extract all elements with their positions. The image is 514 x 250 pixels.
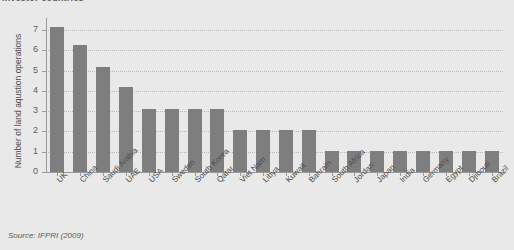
bar — [50, 27, 64, 172]
source-note: Source: IFPRI (2009) — [8, 231, 84, 240]
gridline — [46, 131, 503, 132]
y-tick-mark — [42, 30, 46, 31]
y-tick-label: 1 — [12, 146, 38, 156]
bar — [233, 130, 247, 172]
gridline — [46, 71, 503, 72]
y-axis-line — [46, 18, 47, 173]
y-tick-label: 5 — [12, 65, 38, 75]
y-tick-label: 4 — [12, 85, 38, 95]
y-axis-title: Number of land aqustion operations — [13, 11, 23, 191]
bar — [416, 151, 430, 172]
y-tick-mark — [42, 131, 46, 132]
y-tick-mark — [42, 91, 46, 92]
y-tick-mark — [42, 50, 46, 51]
y-tick-label: 2 — [12, 125, 38, 135]
bar — [165, 109, 179, 172]
bar — [142, 109, 156, 172]
bar — [279, 130, 293, 172]
chart-title: investor countries — [2, 0, 84, 3]
gridline — [46, 91, 503, 92]
y-tick-label: 0 — [12, 166, 38, 176]
plot-area — [46, 18, 503, 172]
y-tick-label: 7 — [12, 24, 38, 34]
gridline — [46, 152, 503, 153]
y-tick-mark — [42, 71, 46, 72]
y-tick-mark — [42, 152, 46, 153]
y-tick-mark — [42, 172, 46, 173]
y-tick-label: 3 — [12, 105, 38, 115]
bar — [96, 67, 110, 172]
y-tick-mark — [42, 111, 46, 112]
gridline — [46, 30, 503, 31]
y-tick-label: 6 — [12, 44, 38, 54]
gridline — [46, 50, 503, 51]
bar — [73, 45, 87, 172]
gridline — [46, 111, 503, 112]
chart-figure: investor countries Number of land aqusti… — [0, 0, 514, 250]
